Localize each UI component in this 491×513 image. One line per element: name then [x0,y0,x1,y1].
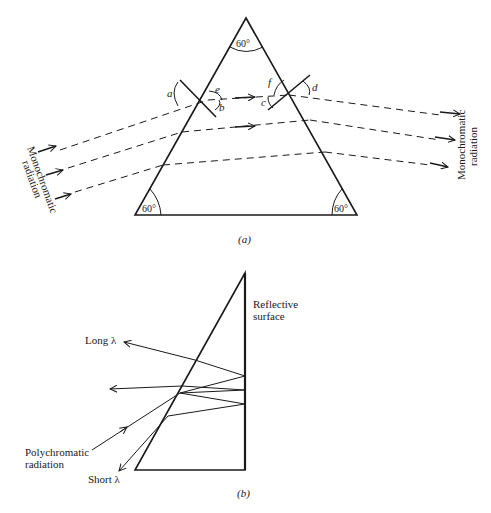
angle-d-label: d [312,81,318,93]
output-label-line2: radiation [467,126,479,166]
short-lambda-ray [119,416,168,471]
ray-3 [55,152,448,199]
ray-1 [38,95,460,152]
angle-e-label: e [215,83,220,95]
polychromatic-arrow [120,427,127,432]
polychromatic-label-line2: radiation [25,458,65,470]
long-lambda-ray [124,342,195,360]
entry-normal [180,80,216,117]
angle-b-label: b [219,101,225,113]
prism-b-triangle [135,273,245,470]
left-angle-label: 60° [142,203,156,214]
long-lambda-label: Long λ [85,334,117,346]
angle-d-arc [303,81,310,95]
output-label-line1: Monochromatic [455,110,467,180]
figure-b: Reflective surface Long λ Short λ Polych… [25,273,298,500]
polychromatic-label-line1: Polychromatic [25,446,89,458]
angle-c-label: c [261,96,266,108]
short-lambda-label: Short λ [88,473,121,485]
ray-2 [46,120,455,175]
right-angle-label: 60° [334,203,348,214]
apex-angle-label: 60° [236,38,250,49]
polychromatic-ray [92,393,180,450]
figure-a-caption: (a) [238,233,251,246]
angle-a-arc [174,82,178,106]
middle-ray [110,386,182,389]
reflective-label-line2: surface [253,310,285,322]
reflective-label-line1: Reflective [253,298,298,310]
figure-a: 60° 60° 60° a e b f c d [20,18,479,246]
prism-diagram: 60° 60° 60° a e b f c d [0,0,491,513]
angle-a-label: a [167,87,173,99]
figure-b-caption: (b) [237,487,250,500]
angle-f-label: f [268,76,273,88]
